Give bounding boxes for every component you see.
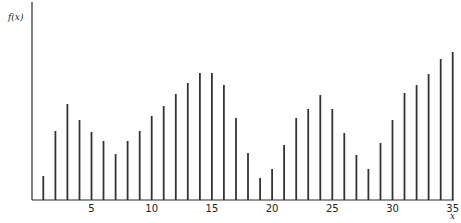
y-axis-label: f(x) bbox=[7, 12, 24, 22]
stems bbox=[43, 52, 452, 200]
stem-chart: 5101520253035 f(x) x bbox=[0, 0, 461, 223]
x-tick-label: 25 bbox=[326, 203, 339, 214]
x-tick-label: 30 bbox=[386, 203, 399, 214]
x-tick-label: 5 bbox=[88, 203, 94, 214]
x-tick-label: 20 bbox=[266, 203, 279, 214]
x-tick-labels: 5101520253035 bbox=[88, 203, 459, 214]
x-tick-label: 10 bbox=[145, 203, 158, 214]
x-axis-label: x bbox=[450, 211, 455, 221]
x-tick-label: 15 bbox=[206, 203, 219, 214]
